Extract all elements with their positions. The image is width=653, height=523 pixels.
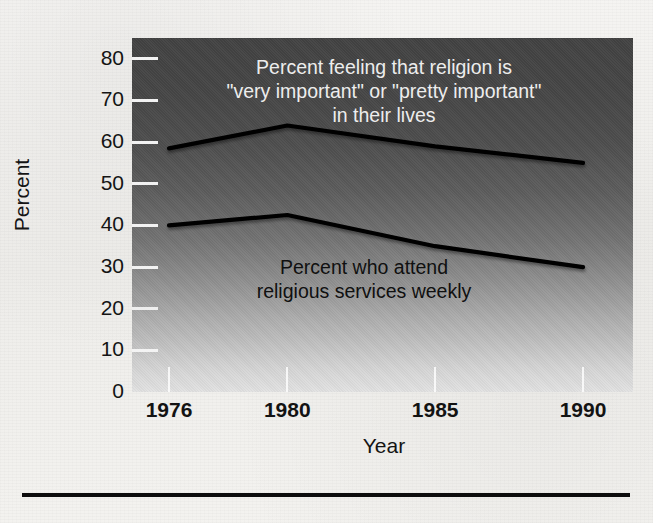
y-axis-title: Percent <box>10 135 34 255</box>
y-tick-label: 40 <box>78 212 124 236</box>
y-tick-mark <box>132 182 158 185</box>
y-tick-mark <box>132 141 158 144</box>
x-tick-mark <box>168 367 170 392</box>
series-line-religion-important <box>169 126 583 163</box>
y-tick-label: 60 <box>78 129 124 153</box>
annotation-attend-weekly: Percent who attend religious services we… <box>174 255 554 303</box>
x-tick-mark <box>434 367 436 392</box>
y-tick-mark <box>132 307 158 310</box>
y-tick-label: 0 <box>78 379 124 403</box>
x-axis-title: Year <box>284 434 484 458</box>
x-tick-label: 1985 <box>390 398 480 422</box>
y-tick-label: 30 <box>78 254 124 278</box>
y-tick-mark <box>132 57 158 60</box>
y-tick-label: 80 <box>78 46 124 70</box>
y-tick-label: 20 <box>78 296 124 320</box>
y-tick-label: 70 <box>78 87 124 111</box>
page-horizontal-rule <box>22 493 630 497</box>
annotation-religion-important: Percent feeling that religion is "very i… <box>174 55 594 127</box>
x-tick-mark <box>286 367 288 392</box>
y-tick-mark <box>132 266 158 269</box>
y-tick-mark <box>132 99 158 102</box>
y-tick-mark <box>132 224 158 227</box>
y-tick-mark <box>132 349 158 352</box>
line-chart-figure: Percent feeling that religion is "very i… <box>0 0 653 523</box>
x-tick-label: 1990 <box>538 398 628 422</box>
plot-area: Percent feeling that religion is "very i… <box>132 38 633 392</box>
y-tick-label: 50 <box>78 171 124 195</box>
x-tick-label: 1976 <box>124 398 214 422</box>
y-tick-label: 10 <box>78 337 124 361</box>
x-tick-label: 1980 <box>242 398 332 422</box>
x-tick-mark <box>582 367 584 392</box>
